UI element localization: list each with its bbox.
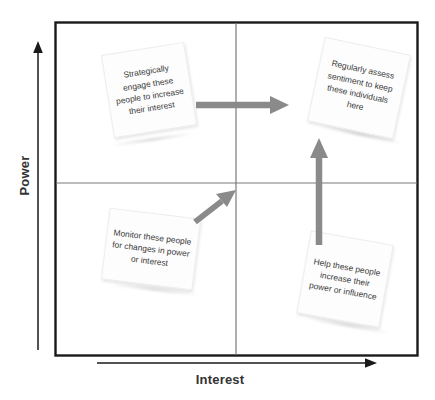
flow-arrow-layer bbox=[0, 0, 435, 400]
flow-arrow-left-to-right-icon bbox=[196, 96, 289, 114]
flow-arrow-bottom-to-top-icon bbox=[310, 138, 328, 245]
stakeholder-matrix-diagram: Strategically engage these people to inc… bbox=[0, 0, 435, 400]
flow-arrow-diagonal-up-right-icon bbox=[195, 190, 236, 222]
